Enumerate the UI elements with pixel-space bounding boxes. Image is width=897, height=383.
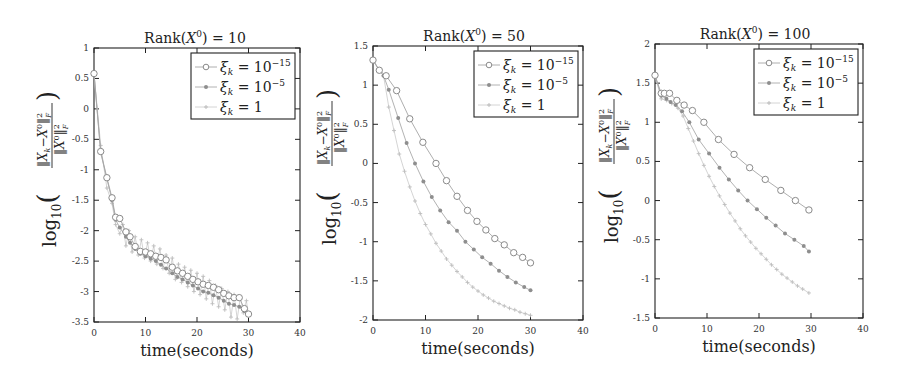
x-tick-label: 40	[857, 324, 869, 334]
marker-dot	[783, 231, 787, 235]
marker-plus	[105, 186, 109, 190]
marker-circle	[376, 67, 382, 73]
marker-dot	[755, 207, 759, 211]
marker-dot	[505, 275, 509, 279]
plot-title: Rank(X0) = 50	[423, 27, 525, 44]
marker-dot	[181, 277, 185, 281]
marker-circle	[241, 305, 247, 311]
x-tick-label: 20	[753, 324, 765, 334]
marker-dot	[680, 109, 684, 113]
marker-dot	[447, 220, 451, 224]
marker-plus	[192, 290, 196, 294]
y-tick-label: -0.5	[351, 198, 369, 208]
x-tick-label: 30	[805, 324, 817, 334]
y-tick-label: -0.5	[72, 134, 90, 144]
marker-circle	[501, 242, 507, 248]
marker-plus	[244, 299, 248, 303]
marker-circle	[97, 148, 103, 154]
marker-plus	[686, 127, 690, 131]
marker-circle	[778, 187, 784, 193]
marker-dot	[222, 299, 226, 303]
y-tick-label: -2	[359, 315, 368, 325]
chart-panel-2: 0102030401.510.50-0.5-1-1.5-2Rank(X0) = …	[312, 27, 589, 358]
marker-plus	[697, 152, 701, 156]
chart-panel-3: 01020304021.510.50-0.5-1-1.5Rank(X0) = 1…	[594, 25, 869, 356]
marker-dot	[802, 244, 806, 248]
marker-dot	[727, 177, 731, 181]
x-tick-label: 20	[472, 326, 484, 336]
marker-plus	[717, 194, 721, 198]
marker-plus	[229, 315, 233, 319]
marker-plus	[183, 265, 187, 269]
marker-dot	[764, 216, 768, 220]
x-tick-label: 40	[577, 326, 589, 336]
y-tick-label: 1	[83, 43, 89, 53]
y-label-close-paren: )	[312, 89, 342, 99]
marker-dot	[687, 120, 691, 124]
marker-circle	[132, 243, 138, 249]
marker-plus	[492, 299, 496, 303]
x-tick-label: 10	[140, 328, 152, 338]
marker-plus	[217, 305, 221, 309]
marker-circle	[163, 257, 169, 263]
marker-circle	[511, 249, 517, 255]
marker-dot	[707, 152, 711, 156]
y-tick-label: -3.5	[72, 317, 90, 327]
legend: ξk = 10−15ξk = 10−5ξk = 1	[191, 53, 295, 119]
marker-dot	[164, 266, 168, 270]
marker-dot	[405, 141, 409, 145]
y-label-denominator: ‖X0‖2F	[614, 119, 632, 151]
y-tick-label: -1	[641, 274, 650, 284]
marker-dot	[175, 275, 179, 279]
marker-circle	[731, 151, 737, 157]
marker-circle	[681, 102, 687, 108]
marker-plus	[413, 199, 417, 203]
marker-plus	[518, 310, 522, 314]
y-tick-label: -1.5	[72, 195, 90, 205]
marker-plus	[418, 212, 422, 216]
marker-plus	[176, 262, 180, 266]
marker-plus	[204, 297, 208, 301]
marker-circle	[407, 116, 413, 122]
marker-dot	[514, 280, 518, 284]
y-tick-label: 1	[362, 80, 368, 90]
y-tick-label: -2.5	[72, 256, 90, 266]
legend-label: ξk = 1	[783, 95, 826, 113]
y-tick-label: 0	[362, 158, 368, 168]
marker-plus	[130, 250, 134, 254]
dot-marker-icon	[767, 81, 771, 85]
y-label-close-paren: )	[32, 91, 62, 101]
marker-circle	[91, 70, 97, 76]
marker-dot	[807, 249, 811, 253]
marker-plus	[133, 235, 137, 239]
marker-dot	[170, 271, 174, 275]
marker-dot	[191, 283, 195, 287]
marker-circle	[519, 254, 525, 260]
y-tick-label: -1.5	[633, 313, 651, 323]
marker-dot	[736, 188, 740, 192]
plot-title: Rank(X0) = 100	[700, 25, 811, 42]
y-tick-label: -3	[80, 287, 89, 297]
marker-circle	[109, 195, 115, 201]
marker-dot	[201, 290, 205, 294]
marker-plus	[712, 184, 716, 188]
y-tick-label: 0.5	[636, 156, 651, 166]
marker-plus	[702, 163, 706, 167]
marker-plus	[408, 185, 412, 189]
marker-plus	[387, 105, 391, 109]
marker-circle	[464, 207, 470, 213]
marker-circle	[383, 73, 389, 79]
marker-plus	[152, 244, 156, 248]
plot-title: Rank(X0) = 10	[144, 29, 246, 46]
marker-dot	[489, 262, 493, 266]
marker-dot	[217, 296, 221, 300]
marker-circle	[245, 311, 251, 317]
marker-dot	[421, 179, 425, 183]
marker-circle	[715, 136, 721, 142]
marker-plus	[201, 274, 205, 278]
y-tick-label: -0.5	[633, 235, 651, 245]
marker-dot	[455, 229, 459, 233]
y-label-numerator: ‖Xk−X0‖2F	[597, 108, 615, 163]
circle-marker-icon	[766, 60, 772, 66]
dot-marker-icon	[487, 83, 491, 87]
